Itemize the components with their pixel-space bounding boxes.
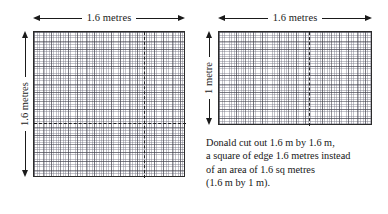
caption-line-4: (1.6 m by 1 m). xyxy=(206,176,384,189)
caption-line-1: Donald cut out 1.6 m by 1.6 m, xyxy=(206,136,384,149)
arrow-left-icon xyxy=(33,15,40,21)
arrow-down-icon xyxy=(22,170,28,177)
left-panel-top-dimension-label: 1.6 metres xyxy=(82,12,137,24)
left-panel-side-dimension-label: 1.6 metres xyxy=(19,77,31,131)
left-panel-dashed-horizontal-guide xyxy=(34,123,186,124)
right-panel-top-dimension-label: 1.6 metres xyxy=(268,12,323,24)
right-panel-top-dimension: 1.6 metres xyxy=(218,10,372,26)
arrow-up-icon xyxy=(206,31,212,38)
dimension-line xyxy=(225,18,268,19)
caption-line-3: of an area of 1.6 sq metres xyxy=(206,163,384,176)
left-panel-grid-square xyxy=(33,31,185,177)
caption-line-2: a square of edge 1.6 metres instead xyxy=(206,149,384,162)
arrow-right-icon xyxy=(178,15,185,21)
dimension-line xyxy=(322,18,365,19)
dimension-line xyxy=(25,131,26,170)
dimension-line xyxy=(25,38,26,77)
left-panel-dashed-vertical-guide xyxy=(144,32,145,178)
arrow-right-icon xyxy=(365,15,372,21)
left-panel-side-dimension: 1.6 metres xyxy=(17,31,33,177)
dimension-line xyxy=(136,18,178,19)
arrow-down-icon xyxy=(206,118,212,125)
left-panel-top-dimension: 1.6 metres xyxy=(33,10,185,26)
diagram-canvas: 1.6 metres 1.6 metres 1.6 metres 1 metre xyxy=(0,0,388,214)
arrow-up-icon xyxy=(22,31,28,38)
dimension-line xyxy=(40,18,82,19)
right-panel-grid-rectangle xyxy=(218,31,372,125)
right-panel-dashed-vertical-guide xyxy=(309,32,310,126)
caption-text-block: Donald cut out 1.6 m by 1.6 m, a square … xyxy=(206,136,384,190)
right-panel-side-dimension-label: 1 metre xyxy=(203,57,215,99)
right-panel-side-dimension: 1 metre xyxy=(201,31,217,125)
arrow-left-icon xyxy=(218,15,225,21)
dimension-line xyxy=(209,99,210,118)
dimension-line xyxy=(209,38,210,57)
